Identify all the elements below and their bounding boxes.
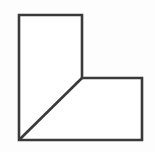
figure-canvas: [0, 0, 155, 152]
shape-drawing: [0, 0, 155, 152]
